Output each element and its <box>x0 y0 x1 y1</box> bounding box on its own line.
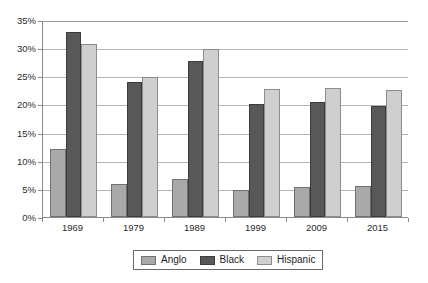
bar-black-1969 <box>66 32 82 217</box>
x-tick-mark <box>164 218 165 222</box>
bar-anglo-1999 <box>233 190 249 217</box>
bar-hispanic-1969 <box>81 44 97 217</box>
bar-anglo-1969 <box>50 149 66 217</box>
legend-label: Anglo <box>161 255 187 265</box>
x-tick-mark <box>42 218 43 222</box>
gridline-15 <box>43 134 408 135</box>
y-tick-label: 35% <box>0 16 36 26</box>
bar-hispanic-2009 <box>325 88 341 217</box>
y-tick-label: 0% <box>0 213 36 223</box>
y-tick-label: 10% <box>0 157 36 167</box>
plot-area <box>42 21 408 218</box>
legend-entry-black[interactable]: Black <box>200 255 244 265</box>
y-tick-label: 30% <box>0 44 36 54</box>
bar-black-1979 <box>127 82 143 217</box>
bar-black-1989 <box>188 61 204 217</box>
bar-anglo-2009 <box>294 187 310 217</box>
y-tick-label: 20% <box>0 100 36 110</box>
y-axis: 35%30%25%20%15%10%5%0% <box>0 21 38 218</box>
gridline-30 <box>43 49 408 50</box>
bar-hispanic-1999 <box>264 89 280 217</box>
gridline-5 <box>43 190 408 191</box>
x-tick-label: 2009 <box>286 223 347 233</box>
y-tick-label: 5% <box>0 185 36 195</box>
x-tick-mark <box>408 218 409 222</box>
y-tick-label: 25% <box>0 72 36 82</box>
legend-entry-hispanic[interactable]: Hispanic <box>257 255 315 265</box>
bar-anglo-1989 <box>172 179 188 217</box>
bar-chart: 35%30%25%20%15%10%5%0% 19691979198919992… <box>0 0 428 283</box>
bar-anglo-2015 <box>355 186 371 217</box>
x-tick-label: 2015 <box>347 223 408 233</box>
gridline-20 <box>43 105 408 106</box>
x-tick-mark <box>103 218 104 222</box>
legend-label: Black <box>220 255 244 265</box>
x-tick-mark <box>286 218 287 222</box>
gridline-35 <box>43 21 408 22</box>
x-tick-label: 1979 <box>103 223 164 233</box>
chart-legend: AngloBlackHispanic <box>133 250 323 270</box>
bar-black-1999 <box>249 104 265 217</box>
gridline-25 <box>43 77 408 78</box>
anglo-swatch <box>141 256 156 265</box>
x-tick-label: 1969 <box>42 223 103 233</box>
bar-anglo-1979 <box>111 184 127 217</box>
bar-hispanic-2015 <box>386 90 402 217</box>
legend-entry-anglo[interactable]: Anglo <box>141 255 187 265</box>
bar-black-2009 <box>310 102 326 217</box>
x-tick-label: 1999 <box>225 223 286 233</box>
x-tick-mark <box>225 218 226 222</box>
x-tick-mark <box>347 218 348 222</box>
legend-label: Hispanic <box>277 255 315 265</box>
bar-hispanic-1989 <box>203 49 219 217</box>
x-tick-label: 1989 <box>164 223 225 233</box>
bar-black-2015 <box>371 106 387 217</box>
bar-hispanic-1979 <box>142 77 158 217</box>
gridline-10 <box>43 162 408 163</box>
x-axis: 196919791989199920092015 <box>42 223 408 239</box>
y-tick-label: 15% <box>0 129 36 139</box>
black-swatch <box>200 256 215 265</box>
hispanic-swatch <box>257 256 272 265</box>
